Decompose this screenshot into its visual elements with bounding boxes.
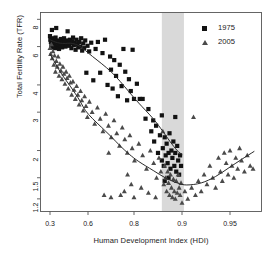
data-point-2005 <box>114 131 119 136</box>
data-point-2005 <box>127 133 132 138</box>
x-tick-0.8: 0.8 <box>121 220 147 227</box>
data-point-2005 <box>106 123 111 128</box>
data-point-1975 <box>77 40 81 44</box>
data-point-2005 <box>233 155 238 160</box>
y-tick-1.2: 1.2 <box>31 197 38 217</box>
legend-label: 2005 <box>218 37 235 46</box>
data-point-1975 <box>84 71 88 75</box>
data-point-2005 <box>226 172 231 177</box>
data-point-2005 <box>140 153 145 158</box>
data-point-2005 <box>87 99 92 104</box>
data-point-1975 <box>118 63 122 67</box>
data-point-1975 <box>116 94 120 98</box>
data-point-2005 <box>191 114 196 119</box>
y-axis-title: Total Fertility Rate (TFR) <box>15 0 24 132</box>
data-point-2005 <box>235 166 240 171</box>
data-point-2005 <box>139 185 144 190</box>
data-point-1975 <box>131 48 135 52</box>
x-tick-0.6: 0.6 <box>75 220 101 227</box>
data-point-2005 <box>57 73 62 78</box>
y-tick-8: 8 <box>31 18 38 38</box>
y-tick-1.5: 1.5 <box>31 176 38 196</box>
data-point-2005 <box>102 192 107 197</box>
data-point-2005 <box>148 148 153 153</box>
data-point-1975 <box>108 54 112 58</box>
y-tick-3: 3 <box>31 111 38 131</box>
data-point-1975 <box>152 139 156 143</box>
x-axis-title: Human Development Index (HDI) <box>40 236 262 245</box>
y-tick-4: 4 <box>31 83 38 103</box>
data-point-2005 <box>216 155 221 160</box>
data-point-1975 <box>168 167 172 171</box>
data-point-1975 <box>112 58 116 62</box>
data-point-2005 <box>109 195 114 200</box>
data-point-2005 <box>120 125 125 130</box>
x-tick-0.3: 0.3 <box>37 220 63 227</box>
data-point-1975 <box>173 115 177 119</box>
data-point-2005 <box>153 195 158 200</box>
data-point-1975 <box>172 164 176 168</box>
data-point-1975 <box>50 28 54 32</box>
data-point-1975 <box>85 44 89 48</box>
data-point-2005 <box>130 146 135 151</box>
data-point-2005 <box>129 182 134 187</box>
data-point-2005 <box>222 150 227 155</box>
data-point-1975 <box>127 77 131 81</box>
data-point-1975 <box>98 71 102 75</box>
data-point-1975 <box>156 151 160 155</box>
data-point-1975 <box>66 29 70 33</box>
data-point-2005 <box>220 178 225 183</box>
data-point-2005 <box>242 169 247 174</box>
data-point-2005 <box>70 79 75 84</box>
triangle-marker-icon <box>202 40 208 45</box>
legend-label: 1975 <box>218 23 235 32</box>
data-point-2005 <box>56 54 61 59</box>
data-point-2005 <box>204 182 209 187</box>
data-point-2005 <box>74 84 79 89</box>
data-point-2005 <box>207 163 212 168</box>
data-point-2005 <box>122 137 127 142</box>
data-point-2005 <box>196 178 201 183</box>
data-point-1975 <box>146 107 150 111</box>
data-point-2005 <box>146 190 151 195</box>
data-point-1975 <box>54 26 58 30</box>
data-point-1975 <box>141 97 145 101</box>
data-point-2005 <box>90 110 95 115</box>
data-point-2005 <box>248 163 253 168</box>
data-point-1975 <box>105 83 109 87</box>
data-point-2005 <box>213 185 218 190</box>
data-point-1975 <box>96 40 100 44</box>
data-point-1975 <box>123 70 127 74</box>
data-point-1975 <box>143 117 147 121</box>
data-point-2005 <box>69 92 74 97</box>
data-point-1975 <box>93 47 97 51</box>
data-point-2005 <box>125 172 130 177</box>
data-point-1975 <box>167 131 171 135</box>
data-point-1975 <box>161 146 165 150</box>
data-point-2005 <box>103 111 108 116</box>
data-point-2005 <box>66 86 71 91</box>
data-point-1975 <box>135 82 139 86</box>
data-point-2005 <box>189 185 194 190</box>
data-point-1975 <box>89 41 93 45</box>
data-point-2005 <box>52 53 57 58</box>
data-point-2005 <box>136 141 141 146</box>
data-point-1975 <box>83 38 87 42</box>
data-point-1975 <box>171 139 175 143</box>
data-point-2005 <box>132 195 137 200</box>
data-point-1975 <box>175 144 179 148</box>
data-point-2005 <box>95 105 100 110</box>
data-point-1975 <box>169 148 173 152</box>
data-point-1975 <box>179 164 183 168</box>
data-point-1975 <box>103 38 107 42</box>
data-point-1975 <box>158 133 162 137</box>
data-point-2005 <box>106 150 111 155</box>
data-point-1975 <box>91 78 95 82</box>
data-point-1975 <box>121 47 125 51</box>
data-point-2005 <box>185 196 190 201</box>
data-points-layer <box>48 26 256 205</box>
data-point-1975 <box>166 161 170 165</box>
data-point-2005 <box>237 146 242 151</box>
data-point-2005 <box>122 189 127 194</box>
data-point-2005 <box>53 69 58 74</box>
